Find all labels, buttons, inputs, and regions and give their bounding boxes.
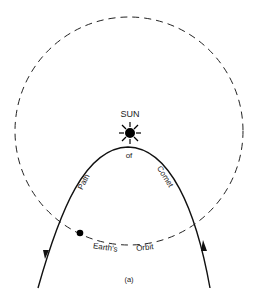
orbit-label: Orbit: [136, 242, 155, 253]
arrowhead-icon: [201, 240, 207, 251]
sun-label: SUN: [120, 109, 139, 119]
earth-dot-icon: [77, 230, 84, 237]
figure-caption: (a): [124, 275, 134, 284]
sun-icon: [119, 122, 141, 144]
earths-label: Earth's: [93, 241, 119, 253]
comet-path-curve: [38, 147, 210, 288]
of-label: of: [126, 151, 133, 160]
comet-orbit-diagram: SUN Path of Comet Earth's Orbit (a): [0, 0, 254, 295]
path-label: Path: [76, 172, 91, 191]
